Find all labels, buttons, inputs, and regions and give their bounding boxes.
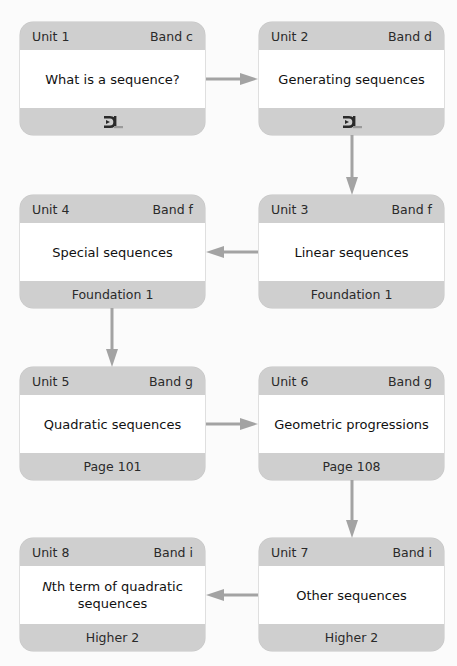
unit-label: Unit 6 <box>271 374 308 389</box>
arrow-down-icon <box>106 308 118 367</box>
arrow-left-icon <box>206 589 258 601</box>
card-header: Unit 6 Band g <box>259 367 444 395</box>
unit-title-rest: th term of quadratic sequences <box>52 579 183 611</box>
dl-logo-icon <box>341 115 363 129</box>
unit-label: Unit 5 <box>32 374 69 389</box>
arrow-left-icon <box>206 246 258 258</box>
unit-title: Special sequences <box>20 223 205 281</box>
band-label: Band g <box>388 374 432 389</box>
card-footer <box>20 108 205 135</box>
unit-card-4: Unit 4 Band f Special sequences Foundati… <box>20 195 205 308</box>
band-label: Band i <box>392 545 432 560</box>
unit-title: What is a sequence? <box>20 50 205 108</box>
card-footer: Foundation 1 <box>259 281 444 308</box>
unit-card-5: Unit 5 Band g Quadratic sequences Page 1… <box>20 367 205 480</box>
band-label: Band f <box>392 202 432 217</box>
card-header: Unit 7 Band i <box>259 538 444 566</box>
unit-title: Nth term of quadratic sequences <box>20 566 205 624</box>
unit-card-1: Unit 1 Band c What is a sequence? <box>20 22 205 135</box>
unit-label: Unit 1 <box>32 29 69 44</box>
card-footer: Page 108 <box>259 453 444 480</box>
band-label: Band c <box>150 29 193 44</box>
unit-label: Unit 2 <box>271 29 308 44</box>
arrow-down-icon <box>346 135 358 195</box>
arrow-down-icon <box>346 480 358 538</box>
card-header: Unit 5 Band g <box>20 367 205 395</box>
unit-title-italic: N <box>42 579 52 594</box>
arrow-right-icon <box>206 73 258 85</box>
card-header: Unit 8 Band i <box>20 538 205 566</box>
unit-card-7: Unit 7 Band i Other sequences Higher 2 <box>259 538 444 651</box>
unit-title: Generating sequences <box>259 50 444 108</box>
unit-card-6: Unit 6 Band g Geometric progressions Pag… <box>259 367 444 480</box>
unit-card-2: Unit 2 Band d Generating sequences <box>259 22 444 135</box>
card-header: Unit 4 Band f <box>20 195 205 223</box>
unit-card-8: Unit 8 Band i Nth term of quadratic sequ… <box>20 538 205 651</box>
unit-title: Quadratic sequences <box>20 395 205 453</box>
band-label: Band d <box>388 29 432 44</box>
unit-label: Unit 8 <box>32 545 69 560</box>
unit-title: Geometric progressions <box>259 395 444 453</box>
card-header: Unit 3 Band f <box>259 195 444 223</box>
unit-label: Unit 7 <box>271 545 308 560</box>
band-label: Band i <box>153 545 193 560</box>
card-footer <box>259 108 444 135</box>
band-label: Band f <box>153 202 193 217</box>
card-header: Unit 2 Band d <box>259 22 444 50</box>
unit-label: Unit 3 <box>271 202 308 217</box>
arrow-right-icon <box>206 418 258 430</box>
dl-logo-icon <box>102 115 124 129</box>
unit-label: Unit 4 <box>32 202 69 217</box>
card-footer: Foundation 1 <box>20 281 205 308</box>
unit-card-3: Unit 3 Band f Linear sequences Foundatio… <box>259 195 444 308</box>
card-footer: Higher 2 <box>20 624 205 651</box>
card-footer: Higher 2 <box>259 624 444 651</box>
unit-title: Other sequences <box>259 566 444 624</box>
band-label: Band g <box>149 374 193 389</box>
unit-title: Linear sequences <box>259 223 444 281</box>
card-header: Unit 1 Band c <box>20 22 205 50</box>
card-footer: Page 101 <box>20 453 205 480</box>
